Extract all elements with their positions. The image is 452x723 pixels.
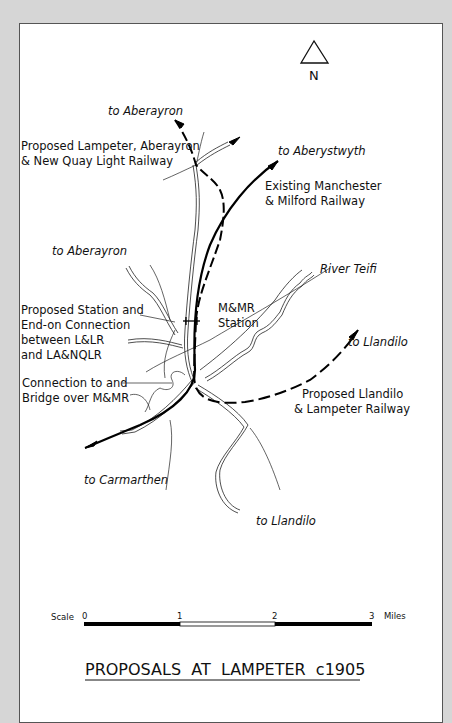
labels: to Aberayron Proposed Lampeter, Aberayro… — [21, 104, 410, 528]
label-to-aberayron-top: to Aberayron — [108, 104, 183, 118]
label-mmr-1: Existing Manchester — [265, 179, 382, 193]
scale-label: Scale — [51, 612, 74, 622]
station-marks — [183, 317, 200, 325]
scale-tick-2: 2 — [272, 611, 277, 621]
label-la-nqlr-2: & New Quay Light Railway — [21, 154, 173, 168]
label-la-nqlr-1: Proposed Lampeter, Aberayron — [21, 139, 200, 153]
label-mmr-station-2: Station — [218, 316, 259, 330]
scale-unit: Miles — [384, 611, 406, 621]
label-llr-1: Proposed Llandilo — [302, 387, 403, 401]
label-to-aberystwyth: to Aberystwyth — [278, 144, 366, 158]
scale-tick-3: 3 — [369, 611, 374, 621]
label-bridge-1: Connection to and — [22, 376, 128, 390]
label-mmr-2: & Milford Railway — [265, 194, 365, 208]
label-to-llandilo-right: to Llandilo — [348, 335, 408, 349]
map-title: PROPOSALS AT LAMPETER c1905 — [85, 660, 365, 680]
label-to-aberayron-left: to Aberayron — [52, 244, 127, 258]
label-bridge-2: Bridge over M&MR — [22, 391, 129, 405]
label-station-conn-4: and LA&NQLR — [21, 348, 102, 362]
label-river-teifi: River Teifi — [320, 262, 377, 276]
scale-tick-0: 0 — [82, 611, 87, 621]
north-label: N — [309, 68, 319, 83]
label-llr-2: & Lampeter Railway — [294, 402, 410, 416]
label-station-conn-1: Proposed Station and — [21, 303, 144, 317]
north-arrow-icon: N — [301, 41, 328, 83]
label-to-llandilo-bottom: to Llandilo — [256, 514, 316, 528]
title-text: PROPOSALS AT LAMPETER c1905 — [85, 660, 365, 679]
scale-tick-1: 1 — [177, 611, 182, 621]
label-station-conn-3: between L&LR — [21, 333, 104, 347]
scale-bar: Scale 0 1 2 3 Miles — [51, 611, 406, 626]
label-mmr-station-1: M&MR — [218, 301, 255, 315]
label-station-conn-2: End-on Connection — [21, 318, 130, 332]
label-to-carmarthen: to Carmarthen — [84, 473, 168, 487]
